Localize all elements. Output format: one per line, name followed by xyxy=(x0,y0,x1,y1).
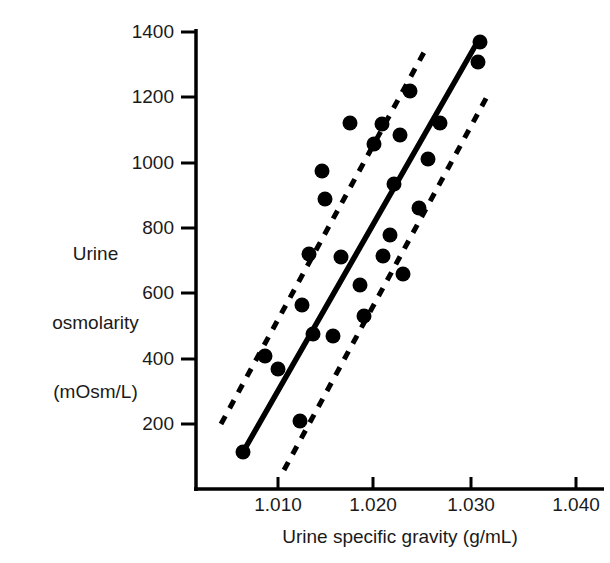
data-point xyxy=(367,137,382,152)
data-point xyxy=(318,192,333,207)
lower-confidence-band xyxy=(284,93,489,470)
data-point xyxy=(433,116,448,131)
x-axis-title: Urine specific gravity (g/mL) xyxy=(190,525,610,548)
data-point xyxy=(393,128,408,143)
y-tick-label-400: 400 xyxy=(104,348,174,370)
x-tick-label-1030: 1.030 xyxy=(426,494,516,516)
y-axis-title-line-3: (mOsm/L) xyxy=(18,380,173,403)
data-point xyxy=(293,414,308,429)
x-tick-label-1010: 1.010 xyxy=(233,494,323,516)
y-tick-label-800: 800 xyxy=(104,217,174,239)
data-point xyxy=(376,249,391,264)
data-point xyxy=(412,201,427,216)
regression-line xyxy=(243,41,478,452)
y-tick-label-1000: 1000 xyxy=(104,152,174,174)
data-point xyxy=(375,117,390,132)
data-point xyxy=(473,35,488,50)
data-point xyxy=(334,250,349,265)
y-axis-title-line-1: Urine xyxy=(18,242,173,265)
data-point xyxy=(258,349,273,364)
data-point xyxy=(421,152,436,167)
data-point xyxy=(326,329,341,344)
y-tick-label-1200: 1200 xyxy=(104,86,174,108)
data-point xyxy=(306,327,321,342)
data-point xyxy=(236,445,251,460)
data-point xyxy=(396,267,411,282)
y-tick-label-200: 200 xyxy=(104,413,174,435)
scatter-plot-figure: Urine osmolarity (mOsm/L) Urine specific… xyxy=(0,0,610,563)
y-axis-ticks xyxy=(181,32,196,424)
data-point xyxy=(471,55,486,70)
data-point xyxy=(315,164,330,179)
x-tick-label-1020: 1.020 xyxy=(328,494,418,516)
data-point xyxy=(357,309,372,324)
data-point xyxy=(383,228,398,243)
y-axis-title-line-2: osmolarity xyxy=(18,311,173,334)
data-point xyxy=(302,247,317,262)
data-point xyxy=(387,177,402,192)
data-point xyxy=(271,362,286,377)
data-point xyxy=(403,84,418,99)
data-point xyxy=(353,278,368,293)
data-point xyxy=(295,298,310,313)
x-tick-label-1040: 1.040 xyxy=(531,494,610,516)
y-tick-label-1400: 1400 xyxy=(104,21,174,43)
x-axis-ticks xyxy=(278,477,576,489)
data-point xyxy=(343,116,358,131)
y-tick-label-600: 600 xyxy=(104,282,174,304)
